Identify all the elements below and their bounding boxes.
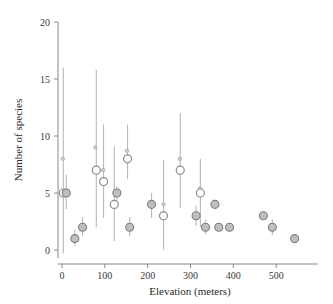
- data-point-0-24: [215, 223, 223, 231]
- data-point-0-11: [125, 149, 129, 153]
- data-point-0-6: [92, 166, 100, 174]
- x-tick-label-300: 300: [183, 270, 198, 281]
- data-point-0-17: [178, 157, 182, 161]
- data-point-0-26: [259, 212, 267, 220]
- y-tick-label-5: 5: [45, 188, 50, 199]
- data-point-0-14: [148, 200, 156, 208]
- axes-layer: [54, 22, 318, 268]
- errorbar-layer: [63, 68, 272, 254]
- y-tick-label-20: 20: [40, 17, 50, 28]
- plot-canvas: 051015200100200300400500Elevation (meter…: [0, 0, 333, 304]
- y-axis-title: Number of species: [12, 99, 24, 181]
- axis-labels-layer: 051015200100200300400500Elevation (meter…: [12, 17, 284, 299]
- data-point-0-13: [126, 223, 134, 231]
- x-tick-label-100: 100: [97, 270, 112, 281]
- x-tick-label-0: 0: [60, 270, 65, 281]
- data-point-0-22: [202, 223, 210, 231]
- data-point-0-18: [176, 166, 184, 174]
- data-point-0-28: [291, 235, 299, 243]
- data-point-0-16: [160, 212, 168, 220]
- data-point-0-10: [113, 189, 121, 197]
- data-point-0-15: [162, 203, 166, 207]
- data-point-0-9: [110, 200, 118, 208]
- data-point-0-23: [211, 200, 219, 208]
- x-axis-title: Elevation (meters): [149, 285, 231, 298]
- data-point-0-3: [71, 235, 79, 243]
- x-tick-label-500: 500: [269, 270, 284, 281]
- data-point-0-27: [268, 223, 276, 231]
- y-tick-label-0: 0: [45, 245, 50, 256]
- data-point-0-8: [100, 178, 108, 186]
- data-point-0-0: [61, 157, 65, 161]
- data-point-0-7: [101, 168, 105, 172]
- data-points-layer: [59, 146, 298, 243]
- y-tick-label-10: 10: [40, 131, 50, 142]
- data-point-0-2: [62, 189, 70, 197]
- x-tick-label-200: 200: [140, 270, 155, 281]
- x-tick-label-400: 400: [226, 270, 241, 281]
- data-point-0-4: [79, 223, 87, 231]
- data-point-0-21: [196, 189, 204, 197]
- scatter-plot-figure: 051015200100200300400500Elevation (meter…: [0, 0, 333, 304]
- data-point-0-25: [226, 223, 234, 231]
- data-point-0-19: [192, 212, 200, 220]
- data-point-0-12: [124, 155, 132, 163]
- y-tick-label-15: 15: [40, 74, 50, 85]
- data-point-0-5: [94, 146, 98, 150]
